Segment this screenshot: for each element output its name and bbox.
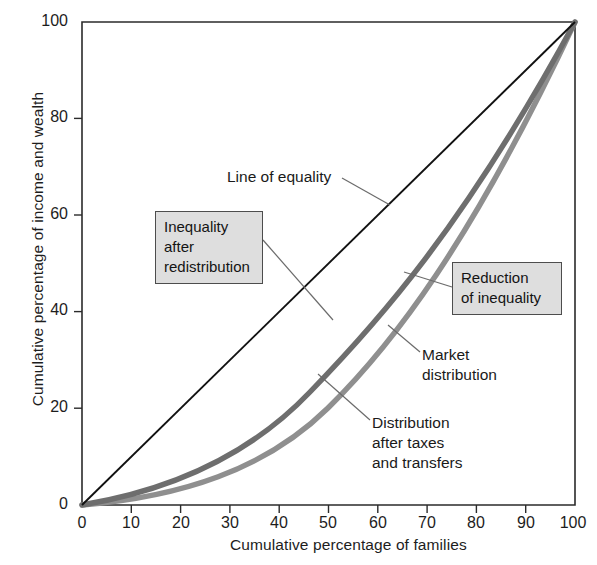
y-tick-60: 60 [32,205,68,223]
y-tick-100: 100 [32,12,68,30]
x-tick-30: 30 [210,514,250,532]
lorenz-curve-figure: Cumulative percentage of income and weal… [0,0,597,565]
x-tick-0: 0 [62,514,102,532]
y-tick-0: 0 [32,495,68,513]
x-tick-40: 40 [259,514,299,532]
y-tick-80: 80 [32,108,68,126]
leader-line-of-equality [342,178,390,205]
x-tick-50: 50 [308,514,348,532]
y-axis-title: Cumulative percentage of income and weal… [29,0,47,499]
leader-inequality-after-redistribution [263,240,333,320]
x-tick-100: 100 [553,514,593,532]
y-tick-40: 40 [32,301,68,319]
annotation-inequality-after-redistribution: Inequality after redistribution [155,211,263,284]
x-tick-90: 90 [506,514,546,532]
x-tick-10: 10 [111,514,151,532]
x-tick-60: 60 [358,514,398,532]
x-axis-ticks [131,505,525,513]
annotation-line-of-equality: Line of equality [227,167,331,187]
annotation-reduction-of-inequality: Reduction of inequality [452,262,562,315]
y-axis-ticks [74,118,82,408]
annotation-distribution-after-taxes-and-transfers: Distribution after taxes and transfers [372,413,462,473]
y-tick-20: 20 [32,398,68,416]
x-tick-80: 80 [456,514,496,532]
x-axis-title: Cumulative percentage of families [230,536,467,554]
annotation-market-distribution: Market distribution [422,345,497,385]
x-tick-70: 70 [407,514,447,532]
x-tick-20: 20 [161,514,201,532]
